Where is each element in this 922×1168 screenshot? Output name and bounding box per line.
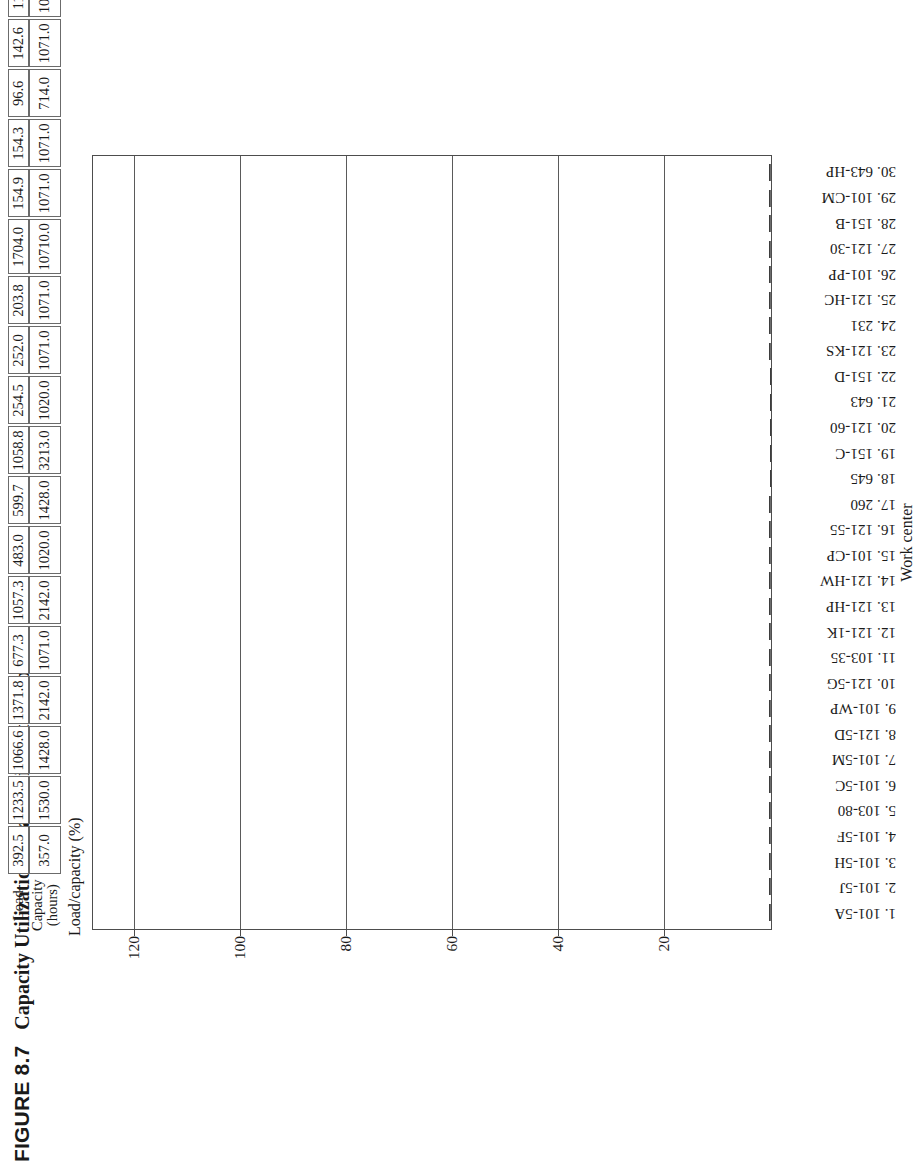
bar [769, 317, 771, 334]
bar [769, 802, 771, 819]
bar-slot [93, 415, 771, 441]
x-label-slot: 20. 121-60 [778, 415, 896, 441]
y-axis-tick-mark [134, 929, 135, 936]
x-axis-tick-label: 24. 231 [778, 318, 896, 333]
bar-segment-light [770, 190, 771, 207]
bar-segment-light [770, 521, 771, 538]
table-cell-capacity: 1071.0 [29, 119, 61, 167]
bar-slot [93, 466, 771, 492]
bar-segment-dark [770, 470, 771, 487]
bar-segment-dark [770, 368, 771, 385]
table-cell-load: 392.5 [8, 826, 29, 874]
bar [769, 190, 771, 207]
x-axis-tick-label: 21. 643 [778, 394, 896, 409]
table-cell-capacity: 357.0 [29, 826, 61, 874]
x-label-slot: 16. 121-55 [778, 517, 896, 543]
bar-series [93, 156, 771, 929]
table-cell-load: 1704.0 [8, 219, 29, 274]
bar-segment-light [770, 215, 771, 232]
table-cell-capacity: 1071.0 [29, 0, 61, 17]
x-label-slot: 6. 101-5C [778, 773, 896, 799]
x-label-slot: 27. 121-30 [778, 236, 896, 262]
figure-number: FIGURE 8.7 [10, 1046, 33, 1162]
bar-segment-light [770, 649, 771, 666]
y-axis-tick-mark [240, 929, 241, 936]
bar-segment-light [770, 241, 771, 258]
x-label-slot: 26. 101-PP [778, 261, 896, 287]
x-axis-tick-label: 10. 121-5G [778, 676, 896, 691]
x-label-slot: 30. 643-HP [778, 159, 896, 185]
bar-slot [93, 441, 771, 467]
bar [769, 547, 771, 564]
bar [770, 419, 771, 436]
bar-segment-light [770, 164, 771, 181]
rotated-figure-stage: FIGURE 8.7Capacity Utilization Chart (wi… [0, 0, 922, 1168]
bar [769, 725, 771, 742]
x-axis-tick-label: 15. 101-CP [778, 548, 896, 563]
bar [769, 776, 771, 793]
bar [769, 241, 771, 258]
plot-area: 20406080100120 [92, 155, 772, 930]
table-cell-load: 154.9 [8, 169, 29, 217]
bar-slot [93, 313, 771, 339]
bar-slot [93, 517, 771, 543]
x-label-slot: 24. 231 [778, 313, 896, 339]
table-cell-capacity: 1071.0 [29, 276, 61, 324]
bar [769, 343, 771, 360]
x-axis-tick-label: 20. 121-60 [778, 420, 896, 435]
bar-slot [93, 543, 771, 569]
bar-slot [93, 823, 771, 849]
y-axis-tick-label: 100 [231, 936, 249, 959]
x-axis-tick-label: 6. 101-5C [778, 778, 896, 793]
y-axis-tick-label: 120 [125, 936, 143, 959]
table-cell-load: 1371.8 [8, 676, 29, 724]
bar-slot [93, 186, 771, 212]
table-cell-load: 1058.8 [8, 426, 29, 474]
x-label-slot: 23. 121-KS [778, 338, 896, 364]
x-axis-title: Work center [898, 155, 916, 930]
table-row-load: Load 392.51233.51066.61371.8677.31057.34… [8, 0, 29, 934]
bar [769, 215, 771, 232]
y-axis-tick-mark [452, 929, 453, 936]
y-axis-tick-label: 40 [549, 936, 567, 952]
x-label-slot: 25. 121-HC [778, 287, 896, 313]
bar-slot [93, 568, 771, 594]
table-cell-load: 483.0 [8, 526, 29, 574]
bar-slot [93, 364, 771, 390]
bar-slot [93, 237, 771, 263]
bar [769, 904, 771, 921]
bar-slot [93, 211, 771, 237]
bar-segment-light [770, 317, 771, 334]
bar-segment-light [770, 827, 771, 844]
y-axis-tick-mark [346, 929, 347, 936]
x-axis-tick-label: 8. 121-5D [778, 727, 896, 742]
x-axis-tick-label: 25. 121-HC [778, 292, 896, 307]
table-cell-load: 599.7 [8, 476, 29, 524]
bar [770, 394, 771, 411]
bar [769, 649, 771, 666]
x-axis-tick-label: 5. 103-80 [778, 803, 896, 818]
y-axis-tick-label: 20 [655, 936, 673, 952]
bar-segment-light [770, 266, 771, 283]
bar-slot [93, 492, 771, 518]
load-capacity-table: Load 392.51233.51066.61371.8677.31057.34… [8, 0, 61, 936]
bar-slot [93, 645, 771, 671]
table-cell-capacity: 1428.0 [29, 476, 61, 524]
bar-slot [93, 339, 771, 365]
bar [769, 674, 771, 691]
x-axis-tick-label: 30. 643-HP [778, 164, 896, 179]
table-cell-load: 96.6 [8, 69, 29, 117]
bar-segment-light [770, 623, 771, 640]
bar-slot [93, 747, 771, 773]
bar-segment-light [770, 904, 771, 921]
bar-segment-dark [770, 419, 771, 436]
load-row-header: Load [8, 876, 29, 934]
x-label-slot: 3. 101-5H [778, 849, 896, 875]
table-cell-load: 252.0 [8, 326, 29, 374]
bar [769, 700, 771, 717]
bar-segment-light [770, 776, 771, 793]
x-label-slot: 7. 101-5M [778, 747, 896, 773]
y-axis-title: Load/capacity (%) [66, 817, 84, 936]
table-cell-capacity: 1530.0 [29, 776, 61, 824]
bar-slot [93, 262, 771, 288]
